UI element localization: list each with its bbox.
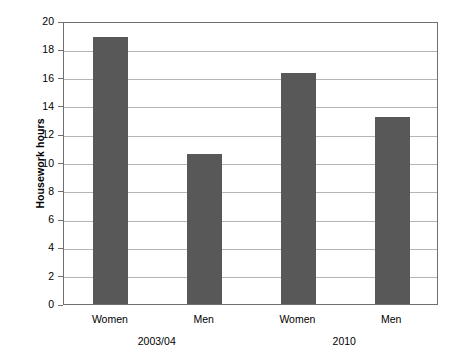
x-category-label: Men (159, 313, 249, 325)
y-tick-label: 0 (20, 299, 54, 309)
bar (375, 117, 410, 304)
y-tick-label: 16 (20, 73, 54, 83)
y-tick-label: 20 (20, 16, 54, 26)
bar (187, 154, 222, 304)
plot-area (63, 22, 438, 305)
y-tick-label: 18 (20, 44, 54, 54)
x-category-label: Women (252, 313, 342, 325)
y-tick-label: 12 (20, 129, 54, 139)
y-tick-label: 10 (20, 158, 54, 168)
x-group-label: 2003/04 (97, 335, 217, 347)
bar-chart: Housework hours 20181614121086420 WomenM… (0, 0, 462, 362)
x-category-label: Men (346, 313, 436, 325)
y-tick-label: 4 (20, 242, 54, 252)
y-tick-label: 2 (20, 271, 54, 281)
bar (93, 37, 128, 304)
y-tick-label: 6 (20, 214, 54, 224)
x-category-label: Women (65, 313, 155, 325)
y-tick-label: 8 (20, 186, 54, 196)
y-tick-label: 14 (20, 101, 54, 111)
x-group-label: 2010 (284, 335, 404, 347)
bar (281, 73, 316, 304)
